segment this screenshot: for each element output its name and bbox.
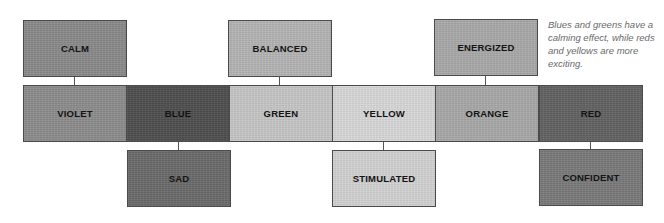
color-label-yellow: YELLOW [363,108,405,119]
mood-label-stimulated: STIMULATED [353,173,416,184]
color-cell-blue: BLUE [126,85,230,142]
mood-box-stimulated: STIMULATED [332,150,436,207]
mood-box-sad: SAD [127,150,231,207]
mood-label-confident: CONFIDENT [562,172,619,183]
color-label-green: GREEN [264,108,299,119]
mood-label-energized: ENERGIZED [457,42,514,53]
mood-box-energized: ENERGIZED [434,19,538,76]
color-label-red: RED [581,108,602,119]
color-cell-yellow: YELLOW [332,85,436,142]
connector-yellow-stimulated [383,142,384,150]
mood-box-confident: CONFIDENT [539,149,643,206]
mood-label-balanced: BALANCED [253,43,308,54]
color-cell-green: GREEN [229,85,333,142]
connector-energized-orange [485,76,486,85]
mood-label-sad: SAD [169,173,190,184]
mood-box-calm: CALM [23,20,127,77]
color-label-violet: VIOLET [57,108,93,119]
mood-label-calm: CALM [61,43,89,54]
mood-box-balanced: BALANCED [228,20,332,77]
connector-blue-sad [178,142,179,150]
color-label-blue: BLUE [165,108,192,119]
color-cell-orange: ORANGE [435,85,539,142]
connector-calm-violet [74,77,75,85]
connector-balanced-green [279,77,280,85]
color-cell-red: RED [539,85,643,142]
explanatory-note: Blues and greens have a calming effect, … [548,18,660,70]
color-cell-violet: VIOLET [23,85,127,142]
color-label-orange: ORANGE [466,108,509,119]
